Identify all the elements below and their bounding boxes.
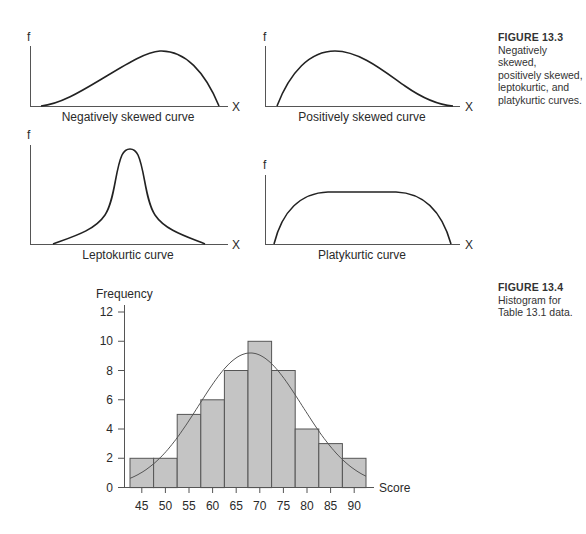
x-tick-label: 90 [348, 499, 362, 513]
y-tick-label: 12 [100, 305, 114, 319]
histogram-bar [177, 414, 201, 487]
figure-number: FIGURE 13.3 [498, 31, 586, 44]
y-axis-label: f [263, 158, 267, 172]
x-tick-label: 50 [159, 499, 173, 513]
caption-line: Table 13.1 data. [498, 306, 573, 319]
panel-label: Leptokurtic curve [82, 248, 174, 262]
panel-label: Negatively skewed curve [62, 110, 195, 124]
y-tick-label: 4 [106, 422, 113, 436]
x-tick-label: 45 [135, 499, 149, 513]
x-tick-label: 65 [230, 499, 244, 513]
x-axis-ticks: 45505560657075808590 [135, 488, 361, 514]
x-tick-label: 85 [324, 499, 338, 513]
histogram-bar [319, 444, 343, 488]
x-tick-label: 60 [206, 499, 220, 513]
caption-line: Histogram for [498, 294, 573, 307]
x-axis-label: X [465, 100, 473, 114]
caption-line: positively skewed, [498, 69, 586, 82]
x-tick-label: 55 [182, 499, 196, 513]
x-axis-title: Score [379, 481, 411, 495]
panel-platykurtic: f X Platykurtic curve [263, 158, 473, 262]
y-tick-label: 0 [106, 481, 113, 495]
panel-positively-skewed: f X Positively skewed curve [263, 30, 473, 124]
curve [274, 192, 451, 244]
curve [277, 51, 453, 106]
histogram-bar [295, 429, 319, 488]
panel-negatively-skewed: f X Negatively skewed curve [27, 30, 240, 124]
x-tick-label: 80 [300, 499, 314, 513]
histogram-bar [248, 341, 272, 487]
histogram-bar [224, 371, 248, 488]
y-axis-title: Frequency [96, 287, 153, 301]
x-axis-label: X [232, 100, 240, 114]
figure-13-4-caption: FIGURE 13.4 Histogram for Table 13.1 dat… [498, 281, 573, 319]
histogram-bar [154, 458, 178, 487]
caption-line: platykurtic curves. [498, 94, 586, 107]
caption-line: leptokurtic, and [498, 81, 586, 94]
panel-label: Platykurtic curve [318, 248, 406, 262]
x-tick-label: 70 [253, 499, 267, 513]
y-tick-label: 10 [100, 334, 114, 348]
histogram-bars [130, 341, 366, 487]
y-axis-label: f [263, 30, 267, 44]
histogram: Frequency 024681012 45505560657075808590… [96, 287, 411, 513]
curve [41, 51, 219, 106]
panel-leptokurtic: f X Leptokurtic curve [27, 128, 240, 262]
y-axis-ticks: 024681012 [100, 305, 125, 495]
x-axis-label: X [465, 238, 473, 252]
x-axis-label: X [232, 238, 240, 252]
histogram-bar [201, 400, 225, 488]
y-tick-label: 6 [106, 393, 113, 407]
y-axis-label: f [27, 128, 31, 142]
y-axis-label: f [27, 30, 31, 44]
histogram-bar [272, 371, 296, 488]
figure-number: FIGURE 13.4 [498, 281, 573, 294]
x-tick-label: 75 [277, 499, 291, 513]
panel-label: Positively skewed curve [298, 110, 426, 124]
curve [53, 149, 205, 244]
caption-line: Negatively skewed, [498, 44, 586, 69]
y-tick-label: 2 [106, 451, 113, 465]
figure-13-3-caption: FIGURE 13.3 Negatively skewed, positivel… [498, 31, 586, 106]
y-tick-label: 8 [106, 364, 113, 378]
